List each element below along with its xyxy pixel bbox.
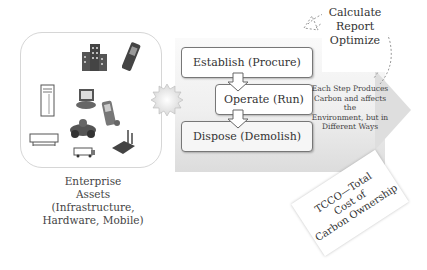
action-optimize: Optimize <box>322 34 388 48</box>
caption-line: (Infrastructure, <box>30 201 156 214</box>
enterprise-assets-caption: Enterprise Assets (Infrastructure, Hardw… <box>30 175 156 227</box>
building-icon <box>80 42 108 72</box>
caption-line: Enterprise <box>30 175 156 188</box>
caption-line: Hardware, Mobile) <box>30 214 156 227</box>
printer-icon <box>28 131 60 147</box>
note-line: Environment, but in <box>310 113 390 123</box>
note-line: Carbon and affects the <box>310 94 390 113</box>
caption-line: Assets <box>30 188 156 201</box>
gear-icon <box>150 83 184 117</box>
car-icon <box>68 118 98 140</box>
step-label: Establish (Procure) <box>193 56 301 69</box>
router-icon <box>110 128 136 158</box>
carbon-note: Each Step Produces Carbon and affects th… <box>310 84 390 132</box>
step-label: Operate (Run) <box>224 93 304 106</box>
down-arrow-icon <box>227 109 249 129</box>
step-label: Dispose (Demolish) <box>193 130 301 143</box>
actions-box: Calculate Report Optimize <box>322 2 388 72</box>
action-calculate: Calculate <box>322 6 388 20</box>
action-report: Report <box>322 20 388 34</box>
server-tower-icon <box>40 84 56 118</box>
note-line: Each Step Produces <box>310 84 390 94</box>
pda-icon <box>100 100 122 130</box>
desktop-computer-icon <box>74 88 98 110</box>
mobile-phone-icon <box>122 40 142 74</box>
note-line: Different Ways <box>310 122 390 132</box>
truck-icon <box>73 146 97 158</box>
down-arrow-icon <box>227 72 249 92</box>
